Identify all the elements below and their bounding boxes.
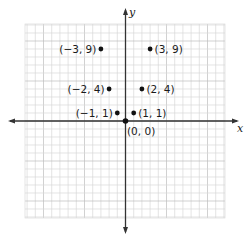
point-label: (2, 4) <box>146 83 174 95</box>
point-marker <box>99 47 104 52</box>
x-axis-label: x <box>237 122 244 135</box>
point-label: (0, 0) <box>127 125 155 137</box>
point-label: (−3, 9) <box>59 43 96 55</box>
point-marker <box>107 87 112 92</box>
x-axis-left-arrow-icon <box>8 119 15 124</box>
point-label: (−2, 4) <box>68 83 105 95</box>
point-marker <box>131 111 136 116</box>
y-axis-top-arrow-icon <box>123 8 128 15</box>
point-marker <box>148 47 153 52</box>
point-marker <box>140 87 145 92</box>
point-label: (−1, 1) <box>76 107 113 119</box>
point-label: (1, 1) <box>138 107 166 119</box>
coordinate-plane: x y (−3, 9)(3, 9)(−2, 4)(2, 4)(−1, 1)(1,… <box>0 0 245 237</box>
point-marker <box>115 111 120 116</box>
y-axis-label: y <box>128 6 136 19</box>
point-label: (3, 9) <box>155 43 183 55</box>
point-marker <box>123 118 129 124</box>
y-axis-bottom-arrow-icon <box>123 227 128 234</box>
